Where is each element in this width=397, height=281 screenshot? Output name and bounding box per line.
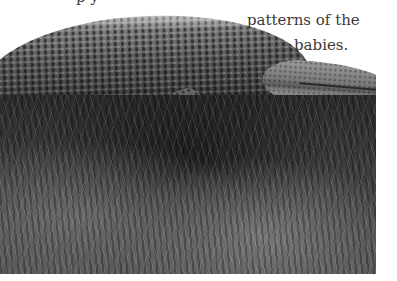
caption-line-1: patterns of the: [247, 11, 360, 29]
grass-foreground: [0, 95, 376, 274]
book-page: p y patterns of the babies.: [0, 0, 397, 281]
cut-off-text-line: p y: [76, 0, 99, 6]
caption-line-2: babies.: [294, 36, 348, 54]
